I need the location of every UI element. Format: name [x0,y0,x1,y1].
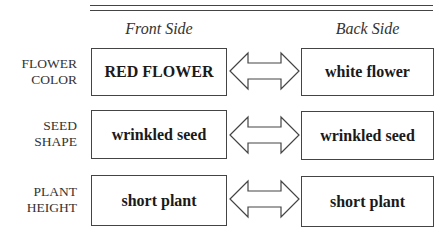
row-label-line2: SHAPE [0,134,77,150]
top-rule-1 [90,5,433,6]
front-box-plant-height: short plant [91,175,227,226]
front-box-seed-shape: wrinkled seed [91,110,227,159]
column-header-front: Front Side [91,20,227,38]
row-label-line1: FLOWER [0,56,77,72]
back-box-plant-height: short plant [301,176,434,227]
front-box-flower-color: RED FLOWER [91,48,227,96]
row-label-line1: SEED [0,118,77,134]
back-box-seed-shape: wrinkled seed [301,111,434,160]
row-label-line2: HEIGHT [0,200,77,216]
double-headed-arrow-icon [228,48,300,94]
row-label-line1: PLANT [0,184,77,200]
back-box-flower-color: white flower [301,48,434,96]
row-label-plant-height: PLANT HEIGHT [0,184,77,216]
double-headed-arrow-icon [228,176,300,222]
double-headed-arrow-icon [228,112,300,158]
top-rule-2 [90,10,433,11]
column-header-back: Back Side [301,20,434,38]
row-label-line2: COLOR [0,72,77,88]
row-label-flower-color: FLOWER COLOR [0,56,77,88]
row-label-seed-shape: SEED SHAPE [0,118,77,150]
